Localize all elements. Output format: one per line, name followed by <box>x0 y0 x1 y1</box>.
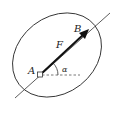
force-diagram: A F B α <box>0 0 115 113</box>
point-a-marker <box>38 72 43 77</box>
line-of-action <box>15 13 110 98</box>
label-alpha: α <box>62 65 68 74</box>
label-b: B <box>73 23 81 34</box>
label-f: F <box>55 39 64 50</box>
label-a: A <box>27 65 35 76</box>
angle-arc <box>53 63 58 75</box>
diagram-canvas: A F B α <box>0 0 115 113</box>
